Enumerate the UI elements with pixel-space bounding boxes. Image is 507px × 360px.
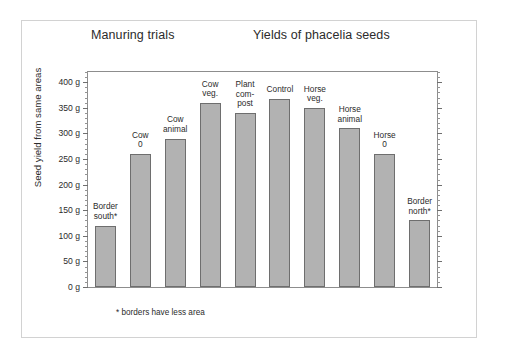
bar[interactable] — [409, 220, 430, 287]
y-axis-minor-tick — [437, 220, 440, 221]
bar-group: Horse animal — [332, 72, 367, 287]
bar[interactable] — [339, 128, 360, 287]
y-axis-major-tick — [437, 133, 442, 134]
y-axis-minor-tick — [437, 72, 440, 73]
y-axis-tick-label: 350 g — [58, 103, 80, 113]
y-axis-minor-tick — [437, 123, 440, 124]
y-axis-tick-label: 0 g — [68, 282, 80, 292]
bar[interactable] — [200, 103, 221, 287]
bar[interactable] — [235, 113, 256, 287]
y-axis-minor-tick — [437, 149, 440, 150]
y-axis-title: Seed yield from same areas — [32, 28, 43, 228]
y-axis-minor-tick — [437, 103, 440, 104]
bar-group: Border north* — [402, 72, 437, 287]
y-axis-minor-tick — [437, 128, 440, 129]
y-axis-tick-label: 150 g — [58, 205, 80, 215]
bar-label: Horse 0 — [362, 131, 408, 150]
y-axis-minor-tick — [437, 241, 440, 242]
y-axis-tick-label: 50 g — [63, 256, 80, 266]
bar-group: Border south* — [88, 72, 123, 287]
bar[interactable] — [95, 226, 116, 287]
y-axis-minor-tick — [437, 174, 440, 175]
y-axis-major-tick — [437, 159, 442, 160]
bar-label: Horse animal — [327, 105, 373, 124]
y-axis-minor-tick — [437, 164, 440, 165]
y-axis-minor-tick — [437, 154, 440, 155]
y-axis-tick-label: 100 g — [58, 231, 80, 241]
y-axis-minor-tick — [437, 226, 440, 227]
chart-title-left: Manuring trials — [91, 28, 174, 42]
y-axis-minor-tick — [437, 92, 440, 93]
bar-group: Cow animal — [158, 72, 193, 287]
bar-group: Control — [262, 72, 297, 287]
y-axis-minor-tick — [437, 195, 440, 196]
y-axis-minor-tick — [437, 113, 440, 114]
y-axis-minor-tick — [437, 190, 440, 191]
y-axis-minor-tick — [437, 98, 440, 99]
bar-label: Horse veg. — [292, 85, 338, 104]
y-axis-major-tick — [437, 261, 442, 262]
y-axis-tick-label: 300 g — [58, 128, 80, 138]
y-axis-major-tick — [437, 82, 442, 83]
y-axis-minor-tick — [437, 77, 440, 78]
bar-label: Border north* — [397, 197, 443, 216]
bar-group: Plant com- post — [228, 72, 263, 287]
bar[interactable] — [304, 108, 325, 287]
bar[interactable] — [374, 154, 395, 287]
chart-title-right: Yields of phacelia seeds — [253, 28, 390, 42]
y-axis-minor-tick — [437, 246, 440, 247]
bar[interactable] — [130, 154, 151, 287]
y-axis-minor-tick — [437, 180, 440, 181]
plot-area: 0 g50 g100 g150 g200 g250 g300 g350 g400… — [87, 71, 438, 288]
y-axis-tick-label: 400 g — [58, 77, 80, 87]
bar-label: Cow animal — [152, 115, 198, 134]
y-axis-major-tick — [437, 236, 442, 237]
footnote: * borders have less area — [116, 308, 205, 317]
bar[interactable] — [165, 139, 186, 287]
y-axis-major-tick — [437, 185, 442, 186]
y-axis-minor-tick — [437, 144, 440, 145]
y-axis-tick-label: 250 g — [58, 154, 80, 164]
figure-root: Manuring trials Yields of phacelia seeds… — [0, 0, 507, 360]
y-axis-major-tick — [437, 108, 442, 109]
y-axis-major-tick — [83, 287, 88, 288]
bar-series: Border south*Cow 0Cow animalCow veg.Plan… — [88, 72, 437, 287]
y-axis-major-tick — [437, 287, 442, 288]
y-axis-minor-tick — [437, 231, 440, 232]
bar[interactable] — [269, 99, 290, 287]
y-axis-tick-label: 200 g — [58, 180, 80, 190]
y-axis-minor-tick — [437, 272, 440, 273]
y-axis-minor-tick — [437, 256, 440, 257]
y-axis-minor-tick — [437, 282, 440, 283]
bar-label: Border south* — [82, 202, 128, 221]
bar-group: Cow 0 — [123, 72, 158, 287]
y-axis-minor-tick — [437, 139, 440, 140]
y-axis-minor-tick — [437, 169, 440, 170]
y-axis-minor-tick — [437, 267, 440, 268]
y-axis-minor-tick — [437, 87, 440, 88]
y-axis-minor-tick — [437, 277, 440, 278]
y-axis-minor-tick — [437, 251, 440, 252]
y-axis-minor-tick — [437, 118, 440, 119]
bar-group: Horse 0 — [367, 72, 402, 287]
